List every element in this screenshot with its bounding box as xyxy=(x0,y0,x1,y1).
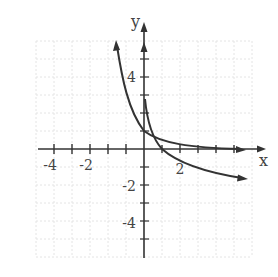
x-tick-label: -2 xyxy=(79,157,93,173)
curve-arrow-icon xyxy=(236,146,246,153)
x-tick-label: 2 xyxy=(176,161,185,177)
curve-arrow-icon xyxy=(237,175,248,182)
y-axis xyxy=(140,22,149,258)
y-axis-arrow-icon xyxy=(141,22,148,32)
y-tick-label: 4 xyxy=(127,69,136,85)
y-tick-label: -2 xyxy=(122,178,136,194)
y-axis-label: y xyxy=(130,12,140,31)
x-tick-label: -4 xyxy=(43,157,57,173)
x-axis-label: x xyxy=(259,151,268,170)
graph: y x -4 -2 2 4 -2 -4 xyxy=(0,0,278,277)
curve-arrow-icon xyxy=(113,40,120,51)
exponential-curve xyxy=(117,46,240,149)
y-tick-label: -4 xyxy=(122,215,136,231)
